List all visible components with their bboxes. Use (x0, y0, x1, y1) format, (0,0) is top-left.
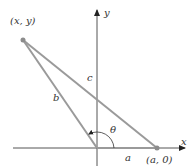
side-b-label: b (53, 92, 59, 103)
side-b (23, 40, 97, 148)
point-a0 (155, 146, 160, 151)
point-xy (21, 38, 26, 43)
side-c (23, 40, 157, 148)
point-a0-label: (a, 0) (146, 154, 173, 165)
x-axis-label: x (181, 136, 187, 147)
side-a-label: a (125, 152, 131, 163)
law-of-cosines-diagram: (x, y) y x c b θ a (a, 0) (0, 0, 190, 166)
point-xy-label: (x, y) (10, 15, 36, 26)
side-c-label: c (87, 72, 93, 83)
angle-theta-label: θ (110, 124, 116, 135)
y-axis-label: y (103, 7, 110, 18)
